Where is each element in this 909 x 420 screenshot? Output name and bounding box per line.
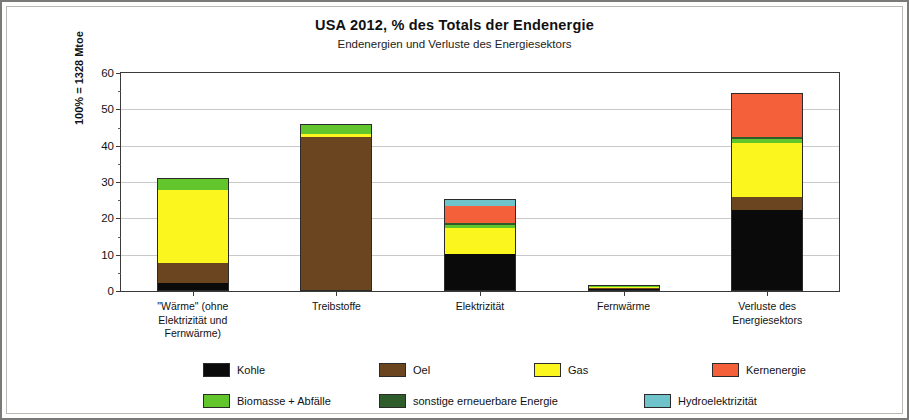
x-tick-mark (193, 291, 194, 296)
y-tick-label: 60 (101, 67, 114, 79)
bar-segment[interactable] (158, 263, 228, 283)
legend-item[interactable]: sonstige erneuerbare Energie (379, 394, 558, 408)
x-tick-mark (336, 291, 337, 296)
legend-row-1: KohleOelGasKernenergie (7, 359, 902, 381)
y-tick-label: 40 (101, 140, 114, 152)
stacked-bar[interactable] (731, 93, 803, 291)
legend-label: Gas (568, 364, 588, 376)
legend-label: Hydroelektrizität (678, 395, 757, 407)
y-tick-mark (116, 291, 121, 292)
y-tick-label: 50 (101, 103, 114, 115)
x-axis-label-line: Energiesektors (675, 314, 859, 328)
bar-segment[interactable] (732, 143, 802, 198)
legend-item[interactable]: Oel (379, 363, 430, 377)
legend-item[interactable]: Gas (534, 363, 588, 377)
bar-slot: Verluste desEnergiesektors (695, 73, 839, 291)
x-axis-label: Verluste desEnergiesektors (675, 300, 859, 327)
legend-label: Biomasse + Abfälle (237, 395, 331, 407)
bar-segment[interactable] (301, 125, 371, 133)
legend-label: Oel (413, 364, 430, 376)
y-tick-label: 20 (101, 212, 114, 224)
plot-area: 100% = 1328 Mtoe 0102030405060 "Wärme" (… (120, 72, 840, 292)
x-axis-label-line: Elektrizität und (101, 314, 285, 328)
legend-label: sonstige erneuerbare Energie (413, 395, 558, 407)
bar-segment[interactable] (158, 283, 228, 290)
bar-segment[interactable] (732, 210, 802, 290)
bar-segment[interactable] (158, 179, 228, 190)
x-tick-mark (624, 291, 625, 296)
bar-segment[interactable] (301, 137, 371, 290)
bar-slot: "Wärme" (ohneElektrizität undFernwärme) (121, 73, 265, 291)
legend-row-2: Biomasse + Abfällesonstige erneuerbare E… (7, 390, 902, 412)
bar-slot: Treibstoffe (265, 73, 409, 291)
stacked-bar[interactable] (157, 178, 229, 291)
y-axis-label: 100% = 1328 Mtoe (73, 0, 85, 125)
bar-slot: Fernwärme (552, 73, 696, 291)
legend-label: Kernenergie (746, 364, 806, 376)
legend-label: Kohle (237, 364, 265, 376)
legend-swatch (379, 363, 406, 377)
legend-swatch (712, 363, 739, 377)
legend-swatch (534, 363, 561, 377)
legend-item[interactable]: Hydroelektrizität (644, 394, 757, 408)
legend-item[interactable]: Biomasse + Abfälle (203, 394, 331, 408)
chart-title: USA 2012, % des Totals der Endenergie (7, 17, 902, 33)
x-axis-label-line: Verluste des (675, 300, 859, 314)
bar-segment[interactable] (445, 206, 515, 223)
legend-swatch (644, 394, 671, 408)
x-axis-label-line: Fernwärme) (101, 327, 285, 341)
bar-segment[interactable] (158, 190, 228, 263)
bar-segment[interactable] (445, 254, 515, 290)
bar-segment[interactable] (445, 228, 515, 253)
bar-segment[interactable] (732, 197, 802, 210)
x-tick-mark (767, 291, 768, 296)
legend-item[interactable]: Kernenergie (712, 363, 806, 377)
legend-swatch (203, 394, 230, 408)
chart-inner-border: USA 2012, % des Totals der Endenergie En… (6, 6, 903, 414)
bar-slot: Elektrizität (408, 73, 552, 291)
legend-item[interactable]: Kohle (203, 363, 265, 377)
stacked-bar[interactable] (444, 199, 516, 291)
y-tick-label: 10 (101, 249, 114, 261)
x-tick-mark (480, 291, 481, 296)
legend-swatch (203, 363, 230, 377)
y-tick-label: 0 (108, 285, 114, 297)
bar-segment[interactable] (589, 289, 659, 290)
legend-swatch (379, 394, 406, 408)
chart-frame: USA 2012, % des Totals der Endenergie En… (0, 0, 909, 420)
y-tick-label: 30 (101, 176, 114, 188)
chart-subtitle: Endenergien und Verluste des Energiesekt… (7, 38, 902, 50)
bar-segment[interactable] (732, 94, 802, 138)
stacked-bar[interactable] (300, 124, 372, 291)
